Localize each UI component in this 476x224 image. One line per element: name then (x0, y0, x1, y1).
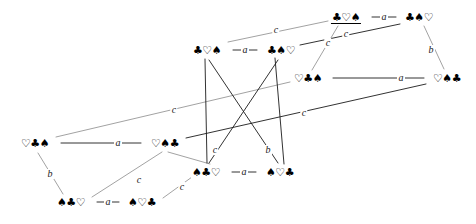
graph-node-n1[interactable]: ♣♡♠ (331, 10, 361, 24)
graph-edge-e18 (205, 59, 207, 163)
node-suit-label: ♣♠♡ (405, 12, 433, 23)
edge-label-e14: c (211, 145, 218, 155)
graph-edge-e16 (92, 152, 162, 197)
graph-node-n11[interactable]: ♠♣♡ (56, 195, 86, 209)
edge-label-e4: a (114, 138, 122, 148)
edge-label-e3: a (397, 73, 405, 83)
graph-node-n12[interactable]: ♠♡♣ (127, 195, 157, 209)
graph-node-n8[interactable]: ♡♠♣ (150, 136, 180, 150)
node-suit-label: ♡♣♠ (294, 73, 322, 84)
graph-node-n7[interactable]: ♡♣♠ (20, 136, 50, 150)
edge-label-e9: c (272, 25, 279, 35)
edge-label-e16: c (135, 175, 142, 185)
node-suit-label: ♠♣♡ (57, 197, 85, 208)
edge-layer (0, 0, 476, 224)
edge-label-e11: c (324, 38, 331, 48)
node-suit-label: ♣♡♠ (332, 12, 360, 23)
node-suit-label: ♠♣♡ (192, 167, 220, 178)
edge-label-e12: c (170, 105, 177, 115)
graph-node-n2[interactable]: ♣♠♡ (404, 10, 434, 24)
edge-label-e17: c (178, 182, 185, 192)
edge-label-e2: a (241, 45, 249, 55)
node-suit-label: ♠♡♣ (128, 197, 156, 208)
edge-label-e15: b (264, 145, 272, 155)
graph-edge-e10 (300, 24, 400, 45)
node-suit-label: ♡♠♣ (433, 73, 461, 84)
graph-node-n9[interactable]: ♠♣♡ (191, 165, 221, 179)
graph-edge-e15 (275, 58, 284, 164)
graph-node-n3[interactable]: ♣♡♠ (192, 43, 222, 57)
graph-edge-e11 (312, 26, 338, 70)
edge-label-e8: b (46, 169, 54, 179)
edge-label-e13: c (300, 108, 307, 118)
graph-node-n5[interactable]: ♡♣♠ (293, 71, 323, 85)
edge-label-e10: c (342, 29, 349, 39)
node-suit-label: ♡♠♣ (151, 138, 179, 149)
cayley-graph-figure: ♣♡♠♣♠♡♣♡♠♣♠♡♡♣♠♡♠♣♡♣♠♡♠♣♠♣♡♠♡♣♠♣♡♠♡♣ aaa… (0, 0, 476, 224)
graph-node-n4[interactable]: ♣♠♡ (266, 43, 296, 57)
edge-label-e5: a (240, 167, 248, 177)
graph-edge-e14 (168, 152, 210, 164)
node-suit-label: ♣♡♠ (193, 45, 221, 56)
node-suit-label: ♣♠♡ (267, 45, 295, 56)
edge-label-e1: a (380, 12, 388, 22)
edge-label-e6: a (104, 197, 112, 207)
node-suit-label: ♡♣♠ (21, 138, 49, 149)
edge-label-e7: b (427, 45, 435, 55)
graph-node-n6[interactable]: ♡♠♣ (432, 71, 462, 85)
node-suit-label: ♠♡♣ (266, 167, 294, 178)
graph-node-n10[interactable]: ♠♡♣ (265, 165, 295, 179)
